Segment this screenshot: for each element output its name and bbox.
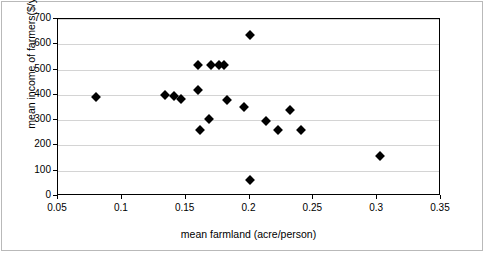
- gridline: [58, 120, 439, 121]
- x-tick-label: 0.35: [420, 203, 460, 213]
- x-tick-label: 0.15: [165, 203, 205, 213]
- x-tick-mark: [440, 195, 441, 199]
- data-point: [245, 175, 255, 185]
- y-tick-label: 700: [1, 13, 51, 23]
- x-tick-mark: [57, 195, 58, 199]
- y-tick-label: 600: [1, 38, 51, 48]
- y-tick-label: 100: [1, 165, 51, 175]
- data-point: [245, 30, 255, 40]
- data-point: [222, 95, 232, 105]
- gridline: [58, 70, 439, 71]
- data-point: [204, 114, 214, 124]
- x-tick-mark: [312, 195, 313, 199]
- data-point: [239, 102, 249, 112]
- gridline: [58, 145, 439, 146]
- data-point: [261, 116, 271, 126]
- x-tick-label: 0.05: [37, 203, 77, 213]
- x-tick-mark: [185, 195, 186, 199]
- y-tick-label: 300: [1, 114, 51, 124]
- x-tick-label: 0.3: [356, 203, 396, 213]
- scatter-chart: mean income of farmers($/year) 010020030…: [0, 0, 486, 254]
- x-tick-mark: [376, 195, 377, 199]
- data-point: [193, 60, 203, 70]
- data-point: [273, 125, 283, 135]
- y-tick-label: 0: [1, 190, 51, 200]
- data-point: [193, 85, 203, 95]
- x-tick-mark: [249, 195, 250, 199]
- x-tick-label: 0.25: [292, 203, 332, 213]
- gridline: [58, 19, 439, 20]
- x-tick-label: 0.2: [229, 203, 269, 213]
- data-point: [296, 125, 306, 135]
- data-point: [195, 125, 205, 135]
- plot-area: [57, 18, 440, 195]
- gridline: [58, 171, 439, 172]
- x-tick-mark: [121, 195, 122, 199]
- y-tick-label: 200: [1, 139, 51, 149]
- data-point: [375, 151, 385, 161]
- y-tick-label: 500: [1, 64, 51, 74]
- gridline: [58, 95, 439, 96]
- x-tick-label: 0.1: [101, 203, 141, 213]
- y-tick-label: 400: [1, 89, 51, 99]
- gridline: [58, 44, 439, 45]
- x-axis-label: mean farmland (acre/person): [57, 228, 440, 240]
- data-point: [285, 105, 295, 115]
